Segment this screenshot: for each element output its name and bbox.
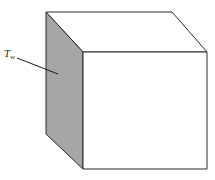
tw-label: Tw: [4, 47, 15, 61]
cube-front-face: [83, 52, 207, 169]
cube-diagram: Tw: [0, 0, 215, 180]
